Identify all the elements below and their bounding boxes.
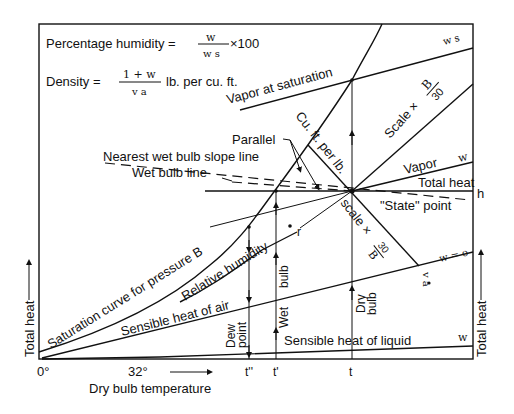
label-w-vapor: w xyxy=(457,150,470,165)
label-cu-ft-per-lb: Cu. ft. per lb. xyxy=(293,109,351,177)
wet-bulb-leader xyxy=(222,178,232,181)
tick-t-double-prime: t'' xyxy=(245,365,253,379)
psychrometric-diagram: Percentage humidity = w w s ×100 Density… xyxy=(0,0,514,414)
tick-t-prime: t' xyxy=(273,365,279,379)
tick-t: t xyxy=(349,365,353,379)
label-total-heat-right: Total heat xyxy=(474,300,489,357)
label-nearest-wet-bulb-slope-line: Nearest wet bulb slope line xyxy=(103,149,259,164)
label-w-liquid: w xyxy=(458,331,468,344)
x-axis-label: Dry bulb temperature xyxy=(89,381,211,396)
label-wet: Wet xyxy=(277,306,291,328)
label-bulb: bulb xyxy=(365,292,379,315)
density-formula-label: Density = xyxy=(46,74,101,89)
label-point: point xyxy=(235,321,249,348)
parallel-leader xyxy=(283,139,318,188)
label-va: v a xyxy=(421,271,432,287)
density-tail: lb. per cu. ft. xyxy=(166,74,238,89)
tick-32: 32° xyxy=(128,364,148,379)
label-wet-bulb-line: Wet bulb line xyxy=(132,165,207,180)
label-ws: w s xyxy=(442,32,461,47)
label-parallel: Parallel xyxy=(232,132,275,147)
label-w-eq-o: w = o xyxy=(438,247,469,264)
label-sensible-heat-liquid: Sensible heat of liquid xyxy=(284,333,411,348)
label-wet-bulb-upper: bulb xyxy=(277,265,291,288)
label-scale-30b: scale × xyxy=(338,196,375,238)
label-vapor-at-saturation: Vapor at saturation xyxy=(225,64,334,107)
label-state-point: "State" point xyxy=(380,198,452,213)
humidity-den: w s xyxy=(203,48,220,59)
humidity-formula-label: Percentage humidity = xyxy=(46,36,176,51)
density-num: 1 + w xyxy=(123,68,156,81)
label-total-heat-left: Total heat xyxy=(22,300,37,357)
label-sensible-heat-air: Sensible heat of air xyxy=(119,297,231,339)
label-h: h xyxy=(477,186,484,201)
label-vapor: Vapor xyxy=(402,155,439,177)
density-den: v a xyxy=(131,86,147,97)
humidity-tail: ×100 xyxy=(230,36,259,51)
state-point xyxy=(349,188,354,193)
tick-0: 0° xyxy=(37,364,49,379)
label-30b-den: B xyxy=(365,248,380,262)
state-to-dew-line xyxy=(210,191,352,227)
label-r: r xyxy=(297,225,301,239)
humidity-num: w xyxy=(206,31,216,44)
label-total-heat: Total heat xyxy=(418,175,475,190)
